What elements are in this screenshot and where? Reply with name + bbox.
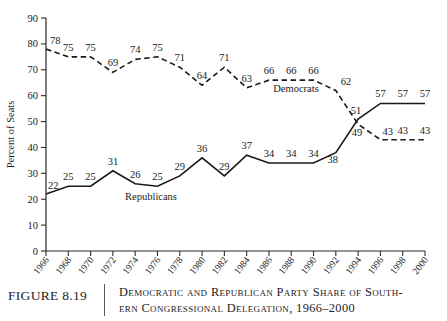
data-label-democrats: 63: [241, 73, 252, 84]
data-label-republicans: 37: [241, 140, 252, 151]
y-axis-tick-label: 40: [28, 142, 39, 153]
data-label-republicans: 25: [63, 171, 74, 182]
data-label-republicans: 26: [130, 169, 141, 180]
axis-spine: [46, 18, 425, 251]
y-axis-tick-label: 90: [28, 13, 39, 24]
x-axis-tick-label: 1992: [321, 255, 341, 276]
figure-caption-text: Democratic and Republican Party Share of…: [119, 282, 447, 317]
data-label-democrats: 74: [130, 44, 141, 55]
data-label-democrats: 49: [352, 127, 363, 138]
series-line-democrats: [46, 49, 425, 140]
chart-plot: 0102030405060708090Percent of Seats19661…: [0, 0, 447, 282]
data-label-democrats: 66: [264, 65, 275, 76]
x-axis-tick-label: 1974: [121, 255, 141, 276]
x-axis-tick-label: 1970: [76, 255, 96, 276]
y-axis-tick-label: 70: [28, 64, 39, 75]
data-label-democrats: 71: [175, 52, 186, 63]
data-label-democrats: 43: [382, 126, 393, 137]
data-label-democrats: 71: [219, 52, 230, 63]
y-axis-tick-label: 60: [28, 90, 39, 101]
data-label-republicans: 29: [219, 161, 230, 172]
data-label-democrats: 69: [108, 57, 119, 68]
data-label-republicans: 57: [375, 88, 386, 99]
y-axis-tick-label: 0: [33, 246, 38, 257]
y-axis-tick-label: 30: [28, 168, 39, 179]
data-label-republicans: 22: [48, 180, 59, 191]
data-label-republicans: 29: [175, 161, 186, 172]
x-axis-tick-label: 1978: [165, 255, 185, 276]
series-line-republicans: [46, 103, 425, 194]
data-label-republicans: 57: [420, 88, 431, 99]
data-label-democrats: 75: [63, 42, 74, 53]
figure-container: 0102030405060708090Percent of Seats19661…: [0, 0, 447, 321]
x-axis-tick-label: 1968: [54, 255, 74, 276]
data-label-democrats: 62: [341, 76, 352, 87]
x-axis-tick-label: 1994: [344, 255, 364, 276]
data-label-republicans: 51: [351, 105, 362, 116]
x-axis-tick-label: 1988: [277, 255, 297, 276]
x-axis-tick-label: 1972: [98, 255, 118, 276]
y-axis-tick-label: 10: [28, 220, 39, 231]
series-annotation-republicans: Republicans: [125, 191, 177, 202]
caption-divider: [104, 284, 105, 316]
data-label-republicans: 57: [397, 88, 408, 99]
x-axis-tick-label: 1998: [388, 255, 408, 276]
data-label-democrats: 75: [85, 42, 96, 53]
x-axis-tick-label: 1986: [254, 255, 274, 276]
data-label-democrats: 43: [397, 125, 408, 136]
figure-number: FIGURE 8.19: [0, 282, 104, 304]
x-axis-tick-label: 1990: [299, 255, 319, 276]
data-label-republicans: 34: [308, 148, 319, 159]
x-axis-tick-label: 1984: [232, 255, 252, 276]
x-axis-tick-label: 1996: [366, 255, 386, 276]
y-axis-tick-label: 80: [28, 38, 39, 49]
series-annotation-democrats: Democrats: [273, 83, 318, 94]
x-axis-tick-label: 1980: [188, 255, 208, 276]
x-axis-tick-label: 1976: [143, 255, 163, 276]
data-label-democrats: 78: [50, 35, 61, 46]
data-label-republicans: 25: [85, 171, 96, 182]
data-label-democrats: 64: [197, 70, 208, 81]
y-axis-tick-label: 20: [28, 194, 39, 205]
x-axis-tick-label: 1982: [210, 255, 230, 276]
data-label-democrats: 66: [308, 65, 319, 76]
data-label-democrats: 75: [152, 42, 163, 53]
data-label-republicans: 34: [264, 148, 275, 159]
x-axis-tick-label: 2000: [410, 255, 430, 276]
x-axis-tick-label: 1966: [31, 255, 51, 276]
figure-caption-block: FIGURE 8.19 Democratic and Republican Pa…: [0, 282, 447, 321]
caption-line-2: ern Congressional Delegation, 1966–2000: [119, 301, 447, 317]
data-label-republicans: 31: [108, 156, 119, 167]
data-label-republicans: 25: [152, 171, 163, 182]
caption-line-1: Democratic and Republican Party Share of…: [119, 285, 447, 301]
data-label-republicans: 34: [286, 148, 297, 159]
data-label-republicans: 38: [328, 154, 339, 165]
data-label-democrats: 43: [420, 125, 431, 136]
y-axis-tick-label: 50: [28, 116, 39, 127]
y-axis-title: Percent of Seats: [5, 101, 16, 169]
data-label-democrats: 66: [286, 65, 297, 76]
data-label-republicans: 36: [197, 143, 208, 154]
